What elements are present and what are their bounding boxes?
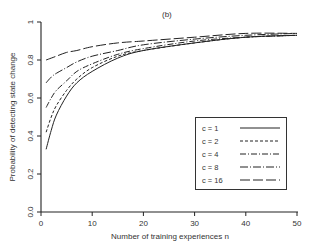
legend-label: c = 16 — [202, 176, 223, 185]
y-tick-label: 1 — [26, 20, 35, 24]
y-tick-label: 0.2 — [26, 168, 35, 179]
x-tick-label: 40 — [241, 219, 250, 228]
long-dash-line-swatch — [240, 177, 280, 183]
series-line-c16 — [46, 33, 297, 60]
legend-item-c1: c = 1 — [202, 122, 286, 134]
y-axis-label: Probability of detecting state change — [8, 53, 17, 182]
legend-item-c8: c = 8 — [202, 161, 286, 173]
legend-label: c = 2 — [202, 137, 218, 146]
x-tick-label: 30 — [190, 219, 199, 228]
x-tick-label: 0 — [39, 219, 43, 228]
legend-label: c = 8 — [202, 163, 218, 172]
y-tick-label: 0.6 — [26, 92, 35, 103]
legend-item-c4: c = 4 — [202, 148, 286, 160]
panel-label: (b) — [162, 10, 172, 19]
solid-line-swatch — [240, 125, 280, 131]
legend-label: c = 1 — [202, 124, 218, 133]
x-tick-label: 20 — [139, 219, 148, 228]
legend: c = 1 c = 2 c = 4 c = 8 c = 16 — [195, 117, 287, 190]
dash-dot-line-swatch — [240, 151, 280, 157]
y-ticks — [37, 22, 41, 212]
legend-label: c = 4 — [202, 150, 218, 159]
long-dash-dot-line-swatch — [240, 164, 280, 170]
y-tick-label: 0.4 — [26, 130, 35, 141]
x-tick-label: 10 — [88, 219, 97, 228]
y-tick-label: 0.8 — [26, 54, 35, 65]
y-tick-label: 0.0 — [26, 206, 35, 217]
short-dash-line-swatch — [240, 138, 280, 144]
x-axis-label: Number of training experiences n — [111, 232, 229, 241]
series-line-c8 — [46, 33, 297, 82]
x-ticks — [41, 212, 297, 216]
legend-item-c2: c = 2 — [202, 135, 286, 147]
legend-item-c16: c = 16 — [202, 174, 286, 186]
x-tick-label: 50 — [293, 219, 302, 228]
